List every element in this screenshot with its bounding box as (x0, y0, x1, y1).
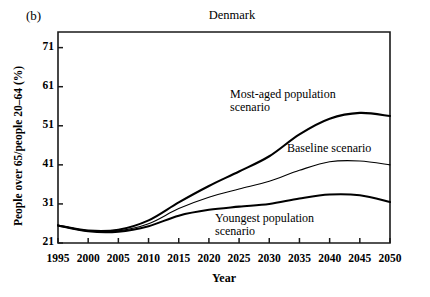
annotation-line-1: Baseline scenario (287, 142, 371, 155)
annotation-youngest: Youngest population scenario (215, 212, 314, 238)
annotation-baseline: Baseline scenario (287, 142, 371, 155)
annotation-most-aged: Most-aged population scenario (230, 88, 336, 114)
figure-panel: (b) Denmark People over 65/people 20–64 … (0, 0, 430, 297)
annotation-line-2: scenario (230, 101, 336, 114)
annotation-line-2: scenario (215, 225, 314, 238)
